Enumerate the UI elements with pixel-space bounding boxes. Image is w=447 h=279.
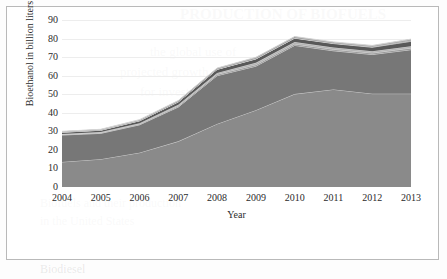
x-axis-title: Year xyxy=(62,209,411,220)
y-axis-tick-label: 50 xyxy=(28,89,58,99)
x-axis-tick-label: 2007 xyxy=(158,192,198,203)
x-axis-tick-label: 2005 xyxy=(81,192,121,203)
y-axis-tick-label: 80 xyxy=(28,34,58,44)
chart-figure: PRODUCTION OF BIOFUELS the global use of… xyxy=(0,0,447,279)
x-axis-tick-label: 2009 xyxy=(236,192,276,203)
x-axis-ticks: 2004200520062007200820092010201120122013 xyxy=(62,192,411,206)
y-axis-tick-label: 20 xyxy=(28,145,58,155)
x-axis-tick-label: 2013 xyxy=(391,192,431,203)
y-axis-tick-label: 90 xyxy=(28,15,58,25)
x-axis-tick-label: 2012 xyxy=(352,192,392,203)
stacked-area-series xyxy=(62,20,411,187)
x-axis-tick-label: 2010 xyxy=(275,192,315,203)
y-axis-ticks: 0102030405060708090 xyxy=(24,20,58,187)
y-axis-tick-label: 0 xyxy=(28,182,58,192)
y-axis-tick-label: 40 xyxy=(28,108,58,118)
x-axis-tick-label: 2004 xyxy=(42,192,82,203)
y-axis-tick-label: 30 xyxy=(28,126,58,136)
background-bleed-text-7: Biodiesel xyxy=(40,262,85,277)
x-axis-tick-label: 2006 xyxy=(120,192,160,203)
y-axis-tick-label: 10 xyxy=(28,163,58,173)
plot-area xyxy=(62,20,411,187)
y-axis-tick-label: 70 xyxy=(28,52,58,62)
x-axis-tick-label: 2008 xyxy=(197,192,237,203)
x-axis-tick-label: 2011 xyxy=(313,192,353,203)
y-axis-tick-label: 60 xyxy=(28,71,58,81)
